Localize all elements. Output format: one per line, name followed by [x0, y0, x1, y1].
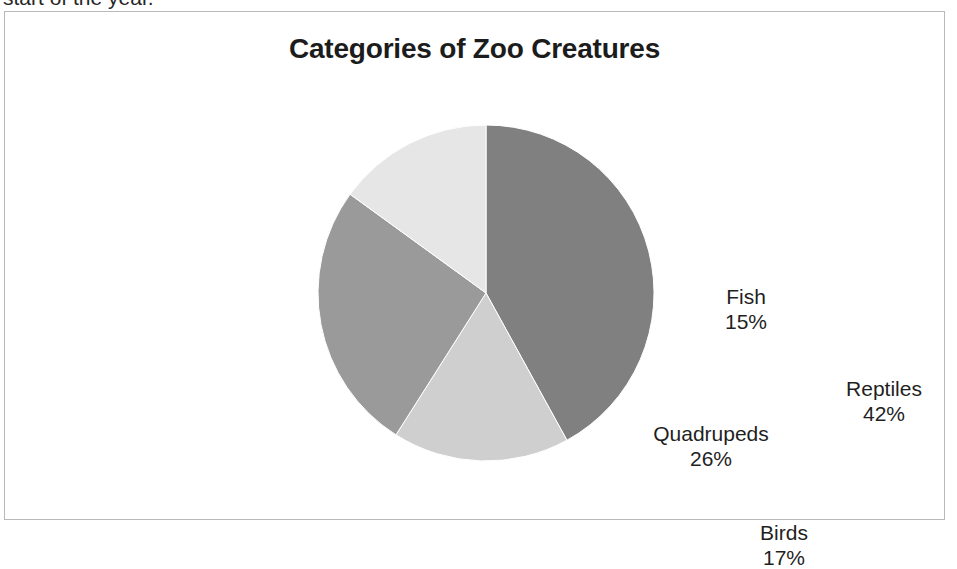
pie-label-quadrupeds-name: Quadrupeds [653, 422, 769, 445]
pie-label-quadrupeds: Quadrupeds 26% [626, 421, 796, 471]
pie-label-reptiles-name: Reptiles [846, 377, 922, 400]
pie-label-reptiles: Reptiles 42% [814, 376, 954, 426]
pie-label-fish-value: 15% [686, 309, 806, 334]
document-text-clip: start of the year. [0, 0, 957, 11]
pie-label-reptiles-value: 42% [814, 401, 954, 426]
pie-label-birds-name: Birds [760, 521, 808, 544]
chart-title: Categories of Zoo Creatures [5, 33, 944, 65]
pie-chart-svg [314, 121, 658, 465]
pie-label-quadrupeds-value: 26% [626, 446, 796, 471]
pie-slice-group [318, 125, 654, 461]
document-preceding-text: start of the year. [3, 0, 154, 10]
pie-label-birds-value: 17% [714, 545, 854, 569]
pie-label-birds: Birds 17% [714, 520, 854, 569]
pie-label-fish: Fish 15% [686, 284, 806, 334]
chart-frame[interactable]: Categories of Zoo Creatures Reptiles 42%… [4, 11, 945, 520]
pie-label-fish-name: Fish [726, 285, 766, 308]
pie-chart[interactable]: Reptiles 42% Birds 17% Quadrupeds 26% Fi… [314, 121, 658, 465]
